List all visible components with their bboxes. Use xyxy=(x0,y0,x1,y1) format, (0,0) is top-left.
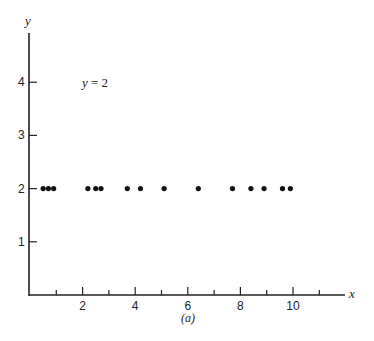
data-point xyxy=(261,186,266,191)
figure-caption: (a) xyxy=(181,311,195,325)
data-point xyxy=(230,186,235,191)
y-tick-label: 1 xyxy=(18,235,25,249)
x-ticks: 246810 xyxy=(56,287,319,313)
data-points xyxy=(41,186,293,191)
data-point xyxy=(51,186,56,191)
y-tick-label: 4 xyxy=(18,75,25,89)
data-point xyxy=(162,186,167,191)
data-point xyxy=(85,186,90,191)
y-axis: y xyxy=(23,13,31,296)
data-point xyxy=(248,186,253,191)
y-axis-label: y xyxy=(23,13,31,28)
y-tick-label: 2 xyxy=(18,182,25,196)
data-point xyxy=(98,186,103,191)
data-point xyxy=(46,186,51,191)
data-point xyxy=(41,186,46,191)
y-tick-label: 3 xyxy=(18,128,25,142)
data-point xyxy=(280,186,285,191)
equation-annotation: y = 2 xyxy=(80,75,108,90)
equation-rhs: = 2 xyxy=(88,75,108,90)
x-tick-label: 10 xyxy=(286,299,300,313)
data-point xyxy=(196,186,201,191)
x-axis-label: x xyxy=(348,286,355,301)
x-tick-label: 2 xyxy=(79,299,86,313)
scatter-chart: y x 1234 246810 y = 2 (a) xyxy=(0,0,374,341)
data-point xyxy=(125,186,130,191)
data-point xyxy=(138,186,143,191)
x-axis: x xyxy=(29,286,355,301)
x-tick-label: 4 xyxy=(132,299,139,313)
x-tick-label: 8 xyxy=(237,299,244,313)
data-point xyxy=(288,186,293,191)
y-ticks: 1234 xyxy=(18,75,37,249)
data-point xyxy=(93,186,98,191)
